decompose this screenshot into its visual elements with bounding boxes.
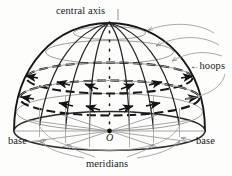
hoops-arrow-glyph: ← [190, 60, 200, 71]
hoops-leader-2 [156, 38, 219, 46]
label-base-left: base [8, 136, 27, 147]
hoops-bold-group [20, 63, 200, 116]
dome-diagram-figure: central axis ←hoops base base meridians … [0, 0, 232, 176]
label-hoops: ←hoops [190, 61, 225, 72]
label-meridians: meridians [86, 159, 128, 170]
arrow-l3 [119, 106, 133, 110]
dome-diagram-svg [0, 0, 232, 176]
base-leader-right [181, 138, 191, 140]
label-base-right: base [196, 136, 215, 147]
arrow-l5 [21, 97, 34, 99]
label-central-axis: central axis [56, 6, 105, 17]
arrow-l4 [146, 103, 160, 106]
hoops-leader-1 [148, 24, 214, 33]
label-center-point-o: O [106, 133, 113, 143]
arrow-l2 [86, 106, 100, 110]
arrow-u5 [26, 76, 38, 78]
arrow-u6 [181, 76, 193, 78]
label-hoops-text: hoops [200, 60, 226, 71]
arrow-l1 [59, 103, 73, 106]
